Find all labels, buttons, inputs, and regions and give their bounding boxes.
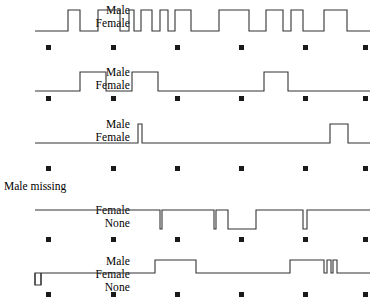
tick-mark [46, 237, 51, 242]
tick-mark [363, 292, 368, 297]
tick-row-1 [0, 45, 376, 55]
tick-mark [239, 292, 244, 297]
tick-row-5 [0, 292, 376, 302]
tick-mark [363, 237, 368, 242]
tick-mark [111, 96, 116, 101]
male-missing-note: Male missing [4, 180, 66, 192]
tick-mark [46, 166, 51, 171]
trace-5-line [0, 253, 376, 295]
trace-panel-1: Male Female [0, 0, 376, 46]
tick-mark [175, 166, 180, 171]
tick-mark [239, 96, 244, 101]
tick-mark [239, 237, 244, 242]
tick-mark [239, 45, 244, 50]
tick-mark [303, 166, 308, 171]
tick-mark [111, 166, 116, 171]
tick-mark [175, 45, 180, 50]
tick-mark [303, 45, 308, 50]
trace-3-line [0, 115, 376, 157]
trace-panel-5: Male Female None [0, 253, 376, 295]
trace-1-line [0, 0, 376, 46]
tick-row-2 [0, 96, 376, 106]
tick-mark [363, 96, 368, 101]
behavior-trace-figure: Male Female Male Female Male [0, 0, 376, 307]
tick-mark [175, 292, 180, 297]
tick-mark [46, 45, 51, 50]
tick-mark [111, 45, 116, 50]
tick-row-4 [0, 237, 376, 247]
tick-mark [111, 292, 116, 297]
trace-panel-3: Male Female [0, 115, 376, 157]
tick-mark [239, 166, 244, 171]
tick-row-3 [0, 166, 376, 176]
tick-mark [111, 237, 116, 242]
tick-mark [46, 96, 51, 101]
tick-mark [303, 237, 308, 242]
tick-mark [46, 292, 51, 297]
tick-mark [363, 45, 368, 50]
tick-mark [175, 96, 180, 101]
tick-mark [175, 237, 180, 242]
tick-mark [363, 166, 368, 171]
tick-mark [303, 292, 308, 297]
tick-mark [303, 96, 308, 101]
